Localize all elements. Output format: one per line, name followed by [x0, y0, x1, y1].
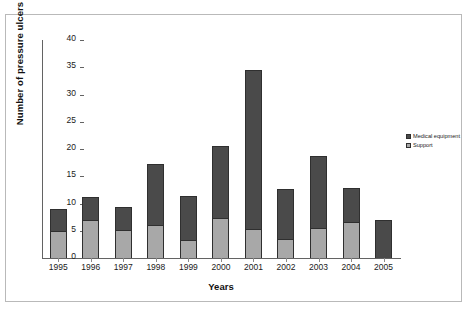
bar-group-1999[interactable]: [172, 40, 204, 258]
bar-segment-support[interactable]: [277, 239, 294, 258]
bar-segment-support[interactable]: [147, 225, 164, 258]
bar-stack[interactable]: [375, 220, 392, 258]
y-axis-title: Number of pressure ulcers: [14, 0, 25, 149]
bar-group-1997[interactable]: [107, 40, 139, 258]
x-tick-label-2002: 2002: [270, 262, 302, 276]
legend-item[interactable]: Support: [406, 142, 468, 149]
bar-segment-support[interactable]: [212, 218, 229, 258]
legend-label: Support: [413, 142, 433, 149]
bar-group-2005[interactable]: [368, 40, 400, 258]
legend-label: Medical equipment: [413, 133, 460, 140]
x-tick-label-2003: 2003: [303, 262, 335, 276]
bar-stack[interactable]: [82, 197, 99, 258]
bar-group-1995[interactable]: [42, 40, 74, 258]
x-tick-label-1997: 1997: [107, 262, 139, 276]
bar-group-1998[interactable]: [140, 40, 172, 258]
bar-segment-support[interactable]: [115, 230, 132, 258]
legend-swatch-icon: [406, 143, 411, 148]
bar-stack[interactable]: [343, 188, 360, 258]
bar-segment-medical-equipment[interactable]: [50, 209, 67, 231]
bar-segment-medical-equipment[interactable]: [180, 196, 197, 240]
x-tick-label-2005: 2005: [368, 262, 400, 276]
chart-figure: Number of pressure ulcers 05101520253035…: [0, 0, 471, 316]
x-axis-title: Years: [42, 281, 400, 292]
x-tick-label-1996: 1996: [75, 262, 107, 276]
bar-group-2000[interactable]: [205, 40, 237, 258]
x-tick-label-2001: 2001: [237, 262, 269, 276]
x-tick-label-1998: 1998: [140, 262, 172, 276]
bar-segment-support[interactable]: [343, 222, 360, 259]
x-tick-label-1999: 1999: [172, 262, 204, 276]
x-tick-label-2000: 2000: [205, 262, 237, 276]
bar-stack[interactable]: [245, 70, 262, 258]
bar-segment-support[interactable]: [245, 229, 262, 258]
bar-stack[interactable]: [212, 146, 229, 258]
bar-series-container: [42, 40, 400, 258]
bar-stack[interactable]: [115, 207, 132, 258]
bar-segment-medical-equipment[interactable]: [343, 188, 360, 222]
bar-segment-support[interactable]: [50, 231, 67, 258]
x-tick-label-2004: 2004: [335, 262, 367, 276]
bar-stack[interactable]: [310, 156, 327, 258]
bar-stack[interactable]: [50, 209, 67, 258]
legend-item[interactable]: Medical equipment: [406, 133, 468, 140]
bar-group-2004[interactable]: [335, 40, 367, 258]
bar-segment-medical-equipment[interactable]: [310, 156, 327, 228]
bar-segment-support[interactable]: [180, 240, 197, 258]
bar-segment-medical-equipment[interactable]: [277, 189, 294, 239]
bar-segment-medical-equipment[interactable]: [147, 164, 164, 225]
bar-group-2001[interactable]: [237, 40, 269, 258]
bar-group-2003[interactable]: [303, 40, 335, 258]
bar-segment-support[interactable]: [310, 228, 327, 258]
bar-stack[interactable]: [147, 164, 164, 258]
chart-legend: Medical equipmentSupport: [406, 133, 468, 151]
x-axis-tick-labels: 1995199619971998199920002001200220032004…: [42, 262, 400, 276]
bar-group-1996[interactable]: [75, 40, 107, 258]
y-tick-mark: [80, 258, 84, 259]
x-tick-label-1995: 1995: [42, 262, 74, 276]
bar-segment-medical-equipment[interactable]: [212, 146, 229, 218]
legend-swatch-icon: [406, 134, 411, 139]
bar-segment-medical-equipment[interactable]: [82, 197, 99, 220]
bar-stack[interactable]: [180, 196, 197, 258]
bar-segment-medical-equipment[interactable]: [245, 70, 262, 229]
bar-group-2002[interactable]: [270, 40, 302, 258]
bar-segment-support[interactable]: [82, 220, 99, 258]
plot-area: 0510152025303540: [42, 40, 400, 258]
bar-segment-medical-equipment[interactable]: [375, 220, 392, 258]
bar-segment-medical-equipment[interactable]: [115, 207, 132, 230]
bar-stack[interactable]: [277, 189, 294, 258]
